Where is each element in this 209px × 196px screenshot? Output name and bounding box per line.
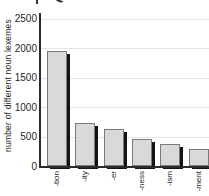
bar--ness — [132, 139, 152, 166]
bar--ment — [189, 149, 209, 166]
x-category-label--ity: -ity — [80, 171, 90, 196]
bar--tion — [47, 51, 67, 166]
x-category-label--ment: -ment — [194, 171, 204, 196]
x-category-label--tion: -tion — [52, 171, 62, 196]
x-category-label--er: -er — [109, 171, 119, 196]
y-tick-label-1000: 1000 — [0, 102, 37, 113]
gridline-2500 — [41, 19, 209, 20]
bar--ism — [160, 144, 180, 166]
plot-area — [41, 12, 209, 168]
bar-chart-figure: number of different noun lexemes 0500100… — [0, 0, 209, 196]
y-tick-label-500: 500 — [0, 131, 37, 142]
bar--er — [104, 129, 124, 166]
y-tick-label-2000: 2000 — [0, 43, 37, 54]
cropped-title-fragment — [36, 0, 38, 4]
x-category-label--ness: -ness — [137, 171, 147, 196]
gridline-2000 — [41, 48, 209, 49]
y-tick-label-2500: 2500 — [0, 13, 37, 24]
y-axis-line — [39, 13, 41, 168]
bar--ity — [75, 123, 95, 166]
cropped-title-fragment — [56, 0, 63, 3]
y-tick-label-1500: 1500 — [0, 72, 37, 83]
y-tick-label-0: 0 — [0, 161, 37, 172]
x-category-label--ism: -ism — [165, 171, 175, 196]
x-axis-line — [39, 166, 209, 168]
